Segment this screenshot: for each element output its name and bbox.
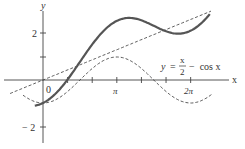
svg-text:=: =	[170, 61, 176, 72]
function-plot: y x 0 π 2π 2 − 2 y = x 2 − cos x	[0, 0, 245, 149]
pi-label: π	[113, 86, 118, 96]
equation-label: y = x 2 − cos x	[160, 55, 220, 77]
svg-text:2: 2	[180, 67, 185, 77]
svg-text:− cos x: − cos x	[189, 61, 220, 72]
two-pi-label: 2π	[184, 86, 194, 96]
svg-text:x: x	[180, 55, 185, 65]
x-axis-label: x	[232, 74, 237, 85]
origin-label: 0	[46, 84, 51, 95]
y-axis-label: y	[40, 0, 46, 11]
y-tick-neg2-label: − 2	[22, 122, 35, 133]
svg-text:y: y	[160, 61, 166, 72]
y-tick-2-label: 2	[32, 28, 37, 39]
